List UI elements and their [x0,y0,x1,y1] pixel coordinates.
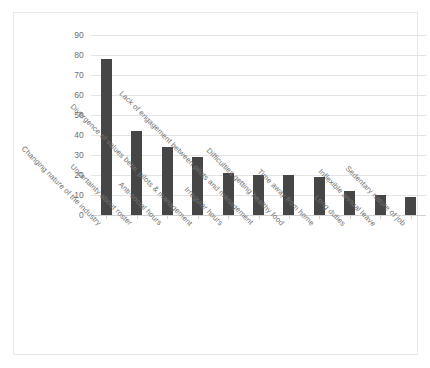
x-axis-tick [228,215,229,219]
x-axis-tick [198,215,199,219]
y-axis-tick-label: 80 [74,50,84,60]
y-axis-tick-label: 60 [74,90,84,100]
x-axis-tick [289,215,290,219]
x-axis-tick [259,215,260,219]
bar [405,197,416,215]
y-axis-tick-label: 90 [74,30,84,40]
x-axis-tick [106,215,107,219]
x-axis-tick [167,215,168,219]
plot-area: 0102030405060708090 Changing nature of t… [91,35,426,215]
x-axis-tick [319,215,320,219]
bar-series [91,35,426,215]
x-axis-tick [411,215,412,219]
x-axis-tick [137,215,138,219]
x-axis-tick [350,215,351,219]
y-axis-tick-label: 70 [74,70,84,80]
y-axis-tick-label: 30 [74,150,84,160]
chart-frame: 0102030405060708090 Changing nature of t… [13,12,418,355]
y-axis-tick-label: 40 [74,130,84,140]
x-axis-tick [380,215,381,219]
